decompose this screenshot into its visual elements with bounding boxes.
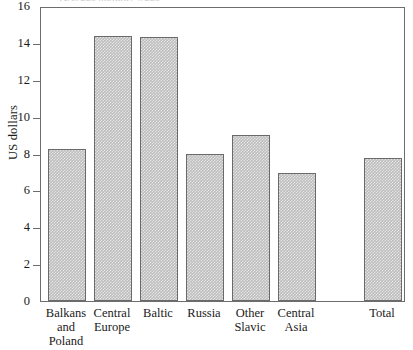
y-axis-label: US dollars [6, 83, 21, 183]
y-tick-2: 2 [0, 265, 41, 266]
bar [94, 36, 132, 302]
y-tick-8: 8 [0, 155, 41, 156]
bar [186, 154, 224, 302]
x-tick-label: Central Asia [256, 306, 336, 334]
y-tick-0: 0 [0, 302, 41, 303]
y-tick-12: 12 [0, 81, 41, 82]
y-tick-label: 4 [24, 221, 30, 234]
plot-area [40, 7, 405, 302]
y-tick-label: 10 [18, 111, 31, 124]
y-tick-label: 16 [18, 0, 31, 13]
y-tick-label: 6 [24, 184, 30, 197]
x-tick-label: Total [342, 306, 413, 320]
bar [140, 37, 178, 301]
y-tick-4: 4 [0, 228, 41, 229]
clipped-title-text: Average monthly wage [60, 0, 260, 1]
bar [278, 173, 316, 301]
y-tick-6: 6 [0, 191, 41, 192]
bar-chart-figure: Average monthly wage US dollars 02468101… [0, 0, 413, 350]
bar [364, 158, 402, 301]
y-tick-label: 12 [18, 74, 31, 87]
y-tick-16: 16 [0, 7, 41, 8]
y-tick-label: 14 [18, 37, 31, 50]
y-tick-10: 10 [0, 118, 41, 119]
y-tick-label: 8 [24, 148, 30, 161]
y-tick-14: 14 [0, 44, 41, 45]
bar [232, 135, 270, 301]
y-tick-label: 2 [24, 258, 30, 271]
bar [48, 149, 86, 301]
